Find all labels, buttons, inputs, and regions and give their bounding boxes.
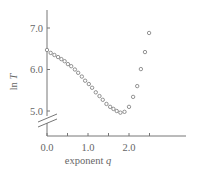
data-point bbox=[105, 102, 108, 105]
y-axis-title: ln T bbox=[8, 73, 19, 91]
data-point bbox=[56, 55, 59, 58]
data-point bbox=[131, 95, 134, 98]
data-point bbox=[98, 94, 101, 97]
data-point bbox=[53, 53, 56, 56]
data-point bbox=[94, 91, 97, 94]
x-tick-label: 2.0 bbox=[122, 142, 135, 153]
data-point bbox=[90, 86, 93, 89]
data-point bbox=[80, 75, 83, 78]
data-point bbox=[63, 60, 66, 63]
data-point bbox=[69, 64, 72, 67]
data-point bbox=[123, 110, 126, 113]
y-tick-label: 7.0 bbox=[30, 23, 43, 34]
data-point bbox=[83, 79, 86, 82]
axes bbox=[38, 10, 186, 136]
x-axis-title: exponent q bbox=[65, 155, 111, 166]
data-point bbox=[87, 82, 90, 85]
data-point bbox=[115, 109, 118, 112]
data-point bbox=[143, 50, 146, 53]
data-point bbox=[66, 62, 69, 65]
data-point bbox=[139, 67, 142, 70]
data-point bbox=[76, 71, 79, 74]
data-point bbox=[147, 31, 150, 34]
data-point bbox=[136, 84, 139, 87]
data-points bbox=[45, 31, 150, 114]
data-point bbox=[60, 57, 63, 60]
data-point bbox=[101, 98, 104, 101]
y-tick-label: 5.0 bbox=[30, 106, 43, 117]
axis-labels: 0.01.02.05.06.07.0exponent qln T bbox=[8, 23, 136, 167]
data-point bbox=[119, 111, 122, 114]
data-point bbox=[49, 51, 52, 54]
x-tick-label: 0.0 bbox=[40, 142, 53, 153]
data-point bbox=[127, 105, 130, 108]
data-point bbox=[108, 105, 111, 108]
data-point bbox=[45, 48, 48, 51]
x-tick-label: 1.0 bbox=[81, 142, 94, 153]
chart: 0.01.02.05.06.07.0exponent qln T bbox=[0, 0, 198, 176]
data-point bbox=[112, 107, 115, 110]
data-point bbox=[73, 68, 76, 71]
y-tick-label: 6.0 bbox=[30, 64, 43, 75]
